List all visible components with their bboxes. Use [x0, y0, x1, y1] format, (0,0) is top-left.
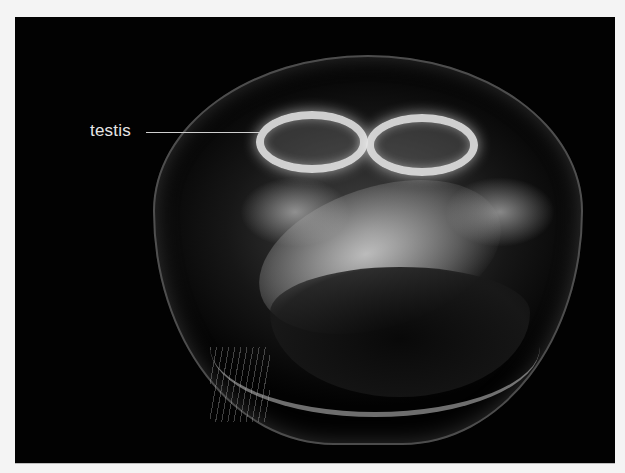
gonad-right — [366, 114, 478, 176]
testis-label: testis — [90, 121, 131, 141]
tentacles — [210, 347, 270, 422]
testis-leader-line — [146, 132, 261, 133]
gonad-left — [256, 111, 368, 173]
jellyfish-photo — [15, 17, 615, 463]
